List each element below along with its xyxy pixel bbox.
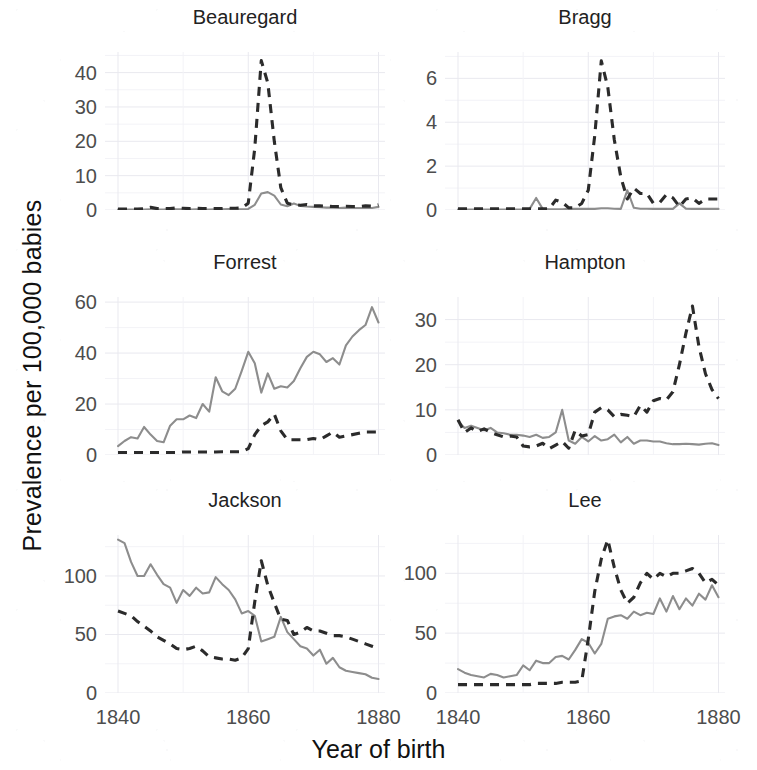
x-tick-label: 1840 [418, 707, 498, 727]
y-tick-label: 10 [23, 166, 97, 186]
y-tick-label: 6 [363, 68, 437, 88]
facet-title-hampton: Hampton [445, 247, 725, 277]
facet-title-jackson: Jackson [105, 485, 385, 515]
y-tick-label: 100 [363, 563, 437, 583]
y-tick-label: 0 [363, 200, 437, 220]
y-tick-label: 100 [23, 566, 97, 586]
panel-bragg [445, 52, 725, 210]
y-tick-label: 0 [363, 445, 437, 465]
y-tick-label: 40 [23, 63, 97, 83]
y-tick-label: 2 [363, 156, 437, 176]
y-tick-label: 4 [363, 112, 437, 132]
x-tick-label: 1860 [548, 707, 628, 727]
y-tick-label: 0 [23, 683, 97, 703]
y-tick-label: 0 [23, 445, 97, 465]
y-tick-label: 60 [23, 292, 97, 312]
x-axis-label: Year of birth [0, 735, 757, 764]
chart-figure: Prevalence per 100,000 babies Year of bi… [0, 0, 757, 770]
y-tick-label: 0 [23, 200, 97, 220]
panel-lee [445, 535, 725, 693]
facet-title-lee: Lee [445, 485, 725, 515]
y-tick-label: 50 [363, 623, 437, 643]
facet-title-beauregard: Beauregard [105, 2, 385, 32]
y-tick-label: 20 [23, 394, 97, 414]
facet-title-bragg: Bragg [445, 2, 725, 32]
y-tick-label: 20 [23, 131, 97, 151]
x-tick-label: 1880 [338, 707, 418, 727]
y-tick-label: 20 [363, 355, 437, 375]
panel-beauregard [105, 52, 385, 210]
y-tick-label: 50 [23, 624, 97, 644]
y-tick-label: 30 [363, 310, 437, 330]
y-tick-label: 40 [23, 343, 97, 363]
y-tick-label: 0 [363, 683, 437, 703]
panel-hampton [445, 297, 725, 455]
panel-jackson [105, 535, 385, 693]
x-tick-label: 1840 [78, 707, 158, 727]
x-tick-label: 1880 [678, 707, 757, 727]
facet-title-forrest: Forrest [105, 247, 385, 277]
y-tick-label: 10 [363, 400, 437, 420]
x-tick-label: 1860 [208, 707, 288, 727]
panel-forrest [105, 297, 385, 455]
y-tick-label: 30 [23, 97, 97, 117]
